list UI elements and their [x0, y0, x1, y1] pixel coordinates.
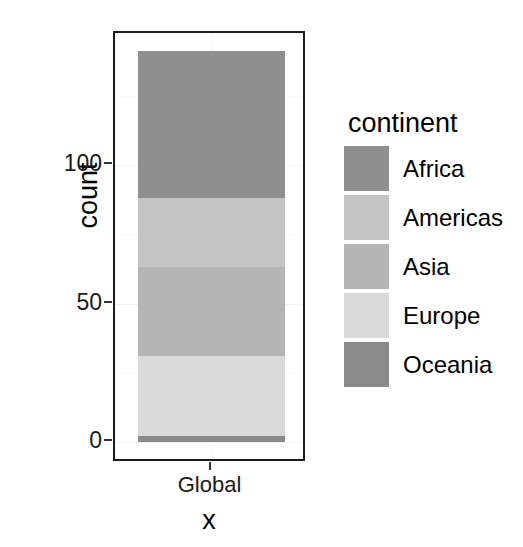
chart-figure: count 100500 Global x continent AfricaAm… [0, 0, 523, 547]
legend-item-label: Americas [403, 204, 503, 232]
legend-item-oceania[interactable]: Oceania [344, 342, 519, 387]
legend-item-label: Asia [403, 253, 450, 281]
legend-item-label: Oceania [403, 351, 492, 379]
legend-item-label: Europe [403, 302, 480, 330]
bar-segment-asia[interactable] [138, 267, 285, 356]
legend-key-swatch [344, 195, 389, 240]
y-tick-label: 0 [46, 427, 102, 454]
y-axis-title: count [73, 116, 104, 276]
bar-segment-africa[interactable] [138, 51, 285, 198]
bar-segment-oceania[interactable] [138, 436, 285, 442]
legend-item-americas[interactable]: Americas [344, 195, 519, 240]
legend-item-asia[interactable]: Asia [344, 244, 519, 289]
y-tick-mark [104, 162, 112, 164]
plot-panel [113, 31, 305, 461]
bar-segment-americas[interactable] [138, 198, 285, 267]
legend-key-swatch [344, 293, 389, 338]
y-tick-label: 100 [46, 150, 102, 177]
legend-items: AfricaAmericasAsiaEuropeOceania [344, 146, 519, 387]
legend-item-africa[interactable]: Africa [344, 146, 519, 191]
legend-item-label: Africa [403, 155, 464, 183]
y-tick-label: 50 [46, 288, 102, 315]
y-tick-mark [104, 439, 112, 441]
x-tick-label: Global [178, 472, 242, 498]
legend-key-swatch [344, 146, 389, 191]
bar-global[interactable] [138, 33, 285, 461]
legend-title: continent [348, 110, 519, 137]
legend-item-europe[interactable]: Europe [344, 293, 519, 338]
x-axis-title: x [113, 505, 305, 536]
bar-segment-europe[interactable] [138, 356, 285, 436]
legend-key-swatch [344, 244, 389, 289]
x-tick-mark [209, 462, 211, 470]
legend: continent AfricaAmericasAsiaEuropeOceani… [344, 110, 519, 391]
y-tick-mark [104, 301, 112, 303]
legend-key-swatch [344, 342, 389, 387]
